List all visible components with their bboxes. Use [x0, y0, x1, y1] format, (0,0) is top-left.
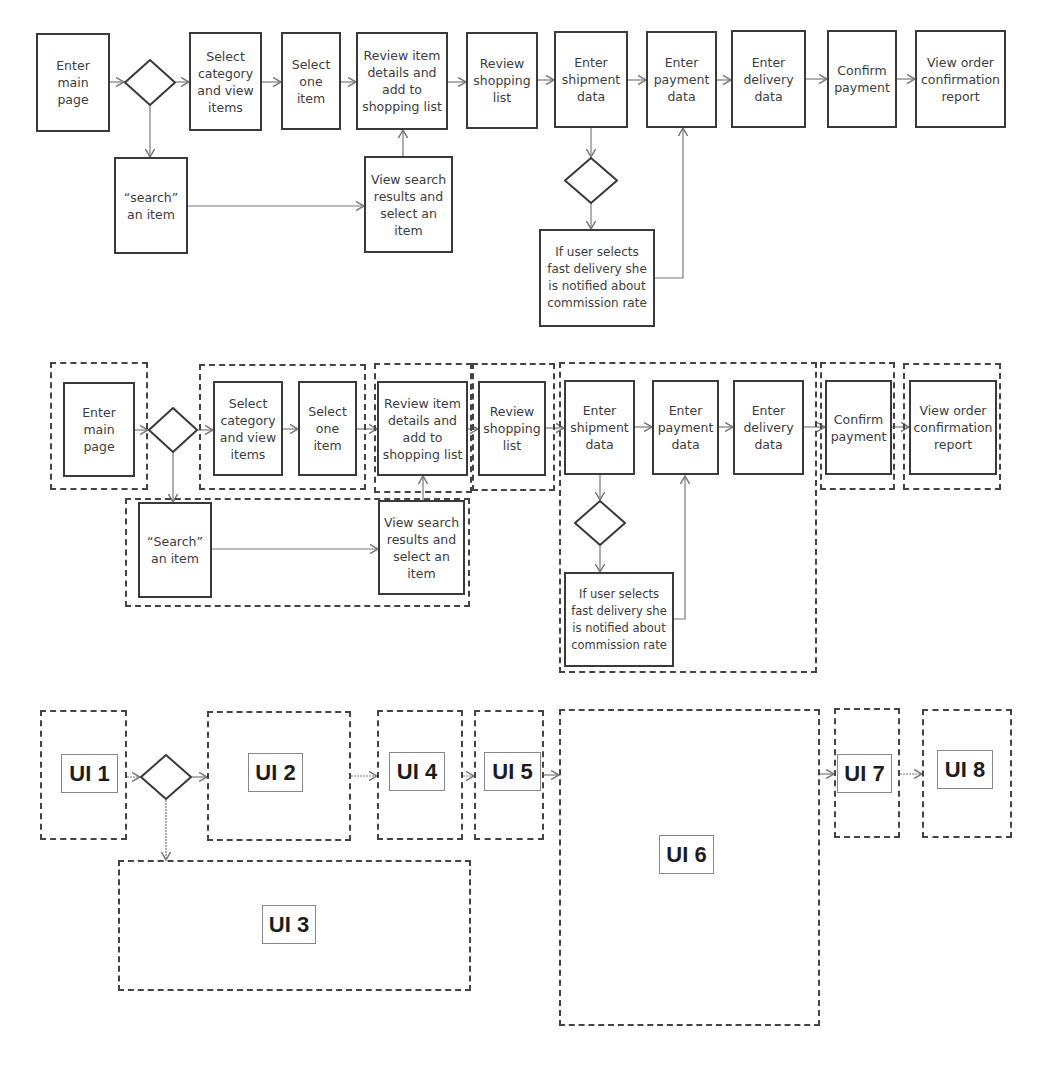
- step-select-category: Select category and view items: [189, 32, 262, 131]
- step-label: View search results and select an item: [371, 171, 446, 239]
- step-label: If user selects fast delivery she is not…: [571, 586, 666, 654]
- step-label: View search results and select an item: [384, 514, 459, 582]
- step-enter-delivery: Enter delivery data: [733, 380, 804, 475]
- step-label: Select category and view items: [220, 395, 276, 463]
- step-select-one-item: Select one item: [298, 381, 357, 476]
- step-label: Select category and view items: [197, 48, 253, 116]
- step-enter-payment: Enter payment data: [652, 380, 719, 475]
- step-label: Enter main page: [82, 404, 116, 455]
- ui-label-1: UI 1: [61, 754, 118, 793]
- step-label: Select one item: [292, 56, 331, 107]
- step-label: Review item details and add to shopping …: [362, 47, 442, 115]
- decision-diamond-icon: [148, 407, 198, 453]
- step-view-search-results: View search results and select an item: [364, 156, 453, 253]
- ui-label-5: UI 5: [484, 752, 541, 791]
- step-label: Enter shipment data: [570, 402, 629, 453]
- decision-diamond-icon: [140, 754, 192, 800]
- step-confirm-payment: Confirm payment: [825, 380, 892, 475]
- ui-label-2: UI 2: [248, 753, 303, 792]
- step-confirm-payment: Confirm payment: [827, 30, 897, 128]
- step-label: Review shopping list: [483, 403, 540, 454]
- step-label: Review shopping list: [473, 55, 530, 106]
- step-label: Enter shipment data: [562, 54, 621, 105]
- step-label: Enter delivery data: [743, 54, 793, 105]
- step-enter-main-page: Enter main page: [36, 33, 110, 132]
- step-review-shopping-list: Review shopping list: [466, 32, 538, 129]
- step-select-category: Select category and view items: [213, 381, 283, 476]
- step-label: Enter main page: [56, 57, 90, 108]
- step-enter-main-page: Enter main page: [63, 382, 135, 477]
- step-enter-shipment: Enter shipment data: [564, 380, 635, 475]
- step-label: Enter delivery data: [743, 402, 793, 453]
- step-label: View order confirmation report: [921, 54, 1000, 105]
- step-label: View order confirmation report: [913, 402, 992, 453]
- step-view-search-results: View search results and select an item: [378, 500, 465, 595]
- decision-diamond-icon: [124, 59, 176, 106]
- step-label: Confirm payment: [831, 411, 887, 445]
- ui-label-4: UI 4: [389, 752, 445, 791]
- step-review-item: Review item details and add to shopping …: [356, 32, 448, 130]
- step-select-one-item: Select one item: [281, 32, 341, 130]
- decision-diamond-icon: [564, 157, 618, 204]
- decision-diamond-icon: [574, 500, 626, 546]
- step-label: Select one item: [308, 403, 347, 454]
- step-view-order: View order confirmation report: [909, 380, 997, 475]
- step-enter-shipment: Enter shipment data: [554, 31, 628, 128]
- step-label: Review item details and add to shopping …: [383, 395, 463, 463]
- step-fast-delivery-note: If user selects fast delivery she is not…: [539, 229, 655, 327]
- ui-label-3: UI 3: [262, 905, 316, 944]
- step-label: Enter payment data: [658, 402, 714, 453]
- step-label: Enter payment data: [654, 54, 710, 105]
- step-label: “search” an item: [124, 189, 178, 223]
- step-search-item: “search” an item: [114, 157, 188, 254]
- step-label: If user selects fast delivery she is not…: [547, 244, 647, 312]
- ui-label-7: UI 7: [837, 754, 892, 793]
- step-review-shopping-list: Review shopping list: [478, 381, 546, 476]
- step-enter-payment: Enter payment data: [646, 31, 717, 128]
- ui-label-8: UI 8: [937, 750, 993, 789]
- step-enter-delivery: Enter delivery data: [731, 30, 806, 128]
- step-review-item: Review item details and add to shopping …: [377, 381, 468, 476]
- step-view-order: View order confirmation report: [915, 30, 1006, 128]
- step-label: “Search” an item: [147, 533, 203, 567]
- step-label: Confirm payment: [834, 62, 890, 96]
- step-fast-delivery-note: If user selects fast delivery she is not…: [564, 572, 674, 667]
- ui-label-6: UI 6: [659, 835, 714, 874]
- step-search-item: “Search” an item: [138, 502, 212, 598]
